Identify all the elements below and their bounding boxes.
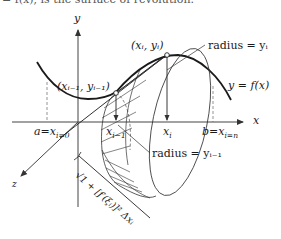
diagram-graphics xyxy=(0,0,281,239)
radius-yi-minus-1-label: radius = yᵢ₋₁ xyxy=(152,148,222,159)
surface-of-revolution-diagram: = f(x), is the surface of revolution. xyxy=(0,0,281,239)
frustum-top-edge xyxy=(116,55,167,93)
radius-yi-label: radius = yᵢ xyxy=(208,40,268,51)
function-label: y = f(x) xyxy=(228,80,269,91)
xi-minus-1-subscript: i−1 xyxy=(112,131,125,140)
z-axis-label: z xyxy=(12,180,17,189)
radius-yi-leader xyxy=(167,45,205,70)
point-label-xi-yi: (xᵢ, yᵢ) xyxy=(131,40,163,51)
b-bound-subscript: i=n xyxy=(224,131,238,140)
b-bound-text: b=x xyxy=(202,125,224,138)
xi-label: xi xyxy=(163,126,172,140)
function-curve xyxy=(37,55,231,100)
point-xi-yi xyxy=(165,53,170,58)
y-axis-label: y xyxy=(74,13,80,24)
point-label-xi-minus-1: (xᵢ₋₁, yᵢ₋₁) xyxy=(57,81,110,92)
a-bound-label: a=xi=0 xyxy=(34,126,69,140)
x-axis-label: x xyxy=(253,115,259,126)
point-xi-minus-1 xyxy=(114,91,119,96)
a-bound-text: a=x xyxy=(34,125,56,138)
xi-subscript: i xyxy=(169,131,171,140)
a-bound-subscript: i=0 xyxy=(56,131,69,140)
b-bound-label: b=xi=n xyxy=(202,126,238,140)
xi-minus-1-label: xi−1 xyxy=(106,126,126,140)
